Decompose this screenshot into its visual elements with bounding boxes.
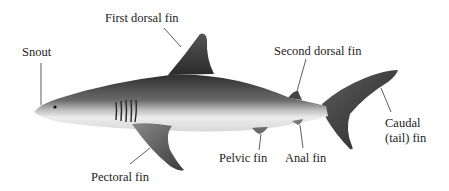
label-pectoral-fin: Pectoral fin (91, 170, 149, 185)
pectoral-leader (130, 148, 150, 164)
label-snout: Snout (22, 45, 51, 60)
shark-diagram: First dorsal fin Snout Second dorsal fin… (0, 0, 449, 191)
label-anal-fin: Anal fin (285, 151, 326, 166)
anal-leader (300, 125, 303, 148)
first-dorsal-leader (164, 28, 181, 47)
caudal-leader (381, 88, 391, 112)
label-pelvic-fin: Pelvic fin (219, 151, 267, 166)
pelvic-leader (259, 134, 261, 150)
label-caudal-line1: Caudal (385, 116, 420, 131)
second-dorsal-leader (297, 59, 306, 91)
shark-body-shape (34, 75, 328, 132)
label-second-dorsal-fin: Second dorsal fin (274, 44, 361, 59)
label-first-dorsal-fin: First dorsal fin (105, 11, 179, 26)
label-caudal-line2: (tail) fin (385, 131, 426, 146)
